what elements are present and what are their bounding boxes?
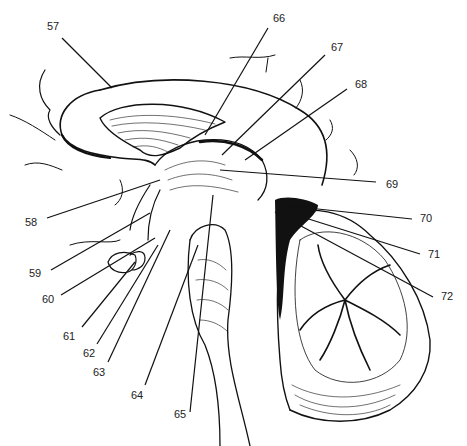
label-59: 59 (29, 267, 41, 279)
label-69: 69 (386, 178, 398, 190)
leader-lines (47, 28, 433, 412)
leader-69 (220, 170, 376, 182)
label-68: 68 (355, 78, 367, 90)
label-65: 65 (174, 408, 186, 420)
label-71: 71 (428, 248, 440, 260)
label-70: 70 (420, 212, 432, 224)
label-63: 63 (93, 366, 105, 378)
label-66: 66 (273, 12, 285, 24)
brainstem (188, 225, 250, 446)
leader-62 (97, 245, 158, 344)
label-60: 60 (42, 293, 54, 305)
label-64: 64 (131, 389, 143, 401)
leader-58 (47, 180, 160, 218)
label-62: 62 (83, 347, 95, 359)
leader-59 (51, 213, 150, 270)
label-67: 67 (331, 41, 343, 53)
label-61: 61 (63, 330, 75, 342)
corpus-callosum (60, 80, 327, 185)
label-57: 57 (47, 20, 59, 32)
brain-drawing: 57 58 59 60 61 62 63 64 65 66 67 68 69 7… (0, 0, 467, 446)
leader-57 (62, 38, 112, 88)
leader-71 (280, 210, 420, 254)
label-58: 58 (25, 216, 37, 228)
diagram-canvas: 57 58 59 60 61 62 63 64 65 66 67 68 69 7… (0, 0, 467, 446)
cerebellum (275, 198, 430, 422)
label-72: 72 (441, 290, 453, 302)
leader-72 (275, 212, 433, 297)
